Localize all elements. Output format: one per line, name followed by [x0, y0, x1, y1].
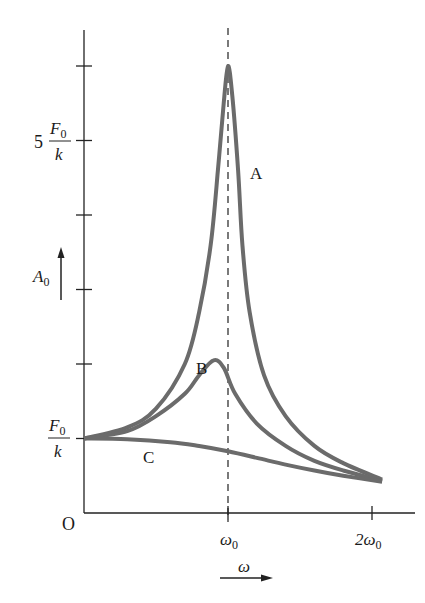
svg-text:k: k [54, 442, 62, 461]
y-axis-title: A0 [32, 247, 65, 300]
x-axis-title: ω [220, 557, 273, 582]
curve-a [84, 66, 382, 480]
curve-c-label: C [143, 448, 154, 467]
svg-text:k: k [55, 145, 63, 164]
svg-text:A0: A0 [32, 267, 49, 289]
curve-b [84, 360, 382, 481]
svg-text:5: 5 [34, 132, 43, 152]
x-tick-label-2w0: 2ω0 [355, 530, 382, 552]
x-tick-label-w0: ω0 [220, 530, 238, 552]
curve-b-label: B [196, 359, 207, 378]
svg-text:F0: F0 [49, 119, 66, 141]
svg-text:ω: ω [238, 557, 250, 576]
arrow-right-icon [261, 575, 273, 582]
svg-text:F0: F0 [48, 416, 65, 438]
resonance-chart: A B C 5 F0 k F0 k A0 O ω0 2ω0 ω [0, 0, 425, 603]
arrow-up-icon [58, 247, 65, 258]
curve-a-label: A [250, 164, 263, 183]
curves [84, 66, 382, 482]
origin-label: O [62, 514, 75, 534]
y-tick-label-5F0k: 5 F0 k [34, 119, 71, 164]
y-tick-label-F0k: F0 k [48, 416, 70, 461]
